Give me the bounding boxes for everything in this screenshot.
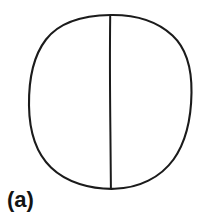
figure-drawing (0, 0, 207, 216)
figure-label: (a) (7, 188, 34, 212)
figure-panel: (a) (0, 0, 207, 216)
vertical-divider-line-shape (110, 17, 111, 189)
